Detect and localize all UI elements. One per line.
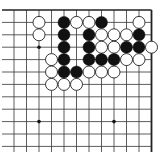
black-stone[interactable] [108,54,120,66]
black-stone[interactable] [58,41,70,53]
star-point [37,45,41,49]
white-stone[interactable] [121,54,133,66]
black-stone[interactable] [121,41,133,53]
white-stone[interactable] [121,29,133,41]
white-stone[interactable] [46,78,58,90]
go-board[interactable] [0,0,158,158]
white-stone[interactable] [83,66,95,78]
white-stone[interactable] [133,54,145,66]
white-stone[interactable] [96,41,108,53]
black-stone[interactable] [83,29,95,41]
white-stone[interactable] [71,78,83,90]
black-stone[interactable] [58,54,70,66]
black-stone[interactable] [96,54,108,66]
black-stone[interactable] [83,41,95,53]
black-stone[interactable] [71,66,83,78]
white-stone[interactable] [33,16,45,28]
black-stone[interactable] [83,54,95,66]
black-stone[interactable] [133,29,145,41]
white-stone[interactable] [58,78,70,90]
black-stone[interactable] [133,41,145,53]
white-stone[interactable] [96,66,108,78]
white-stone[interactable] [108,29,120,41]
white-stone[interactable] [96,29,108,41]
white-stone[interactable] [71,16,83,28]
white-stone[interactable] [46,54,58,66]
white-stone[interactable] [83,16,95,28]
white-stone[interactable] [108,66,120,78]
star-point [112,120,116,124]
black-stone[interactable] [96,16,108,28]
white-stone[interactable] [133,16,145,28]
black-stone[interactable] [58,29,70,41]
star-point [37,120,41,124]
white-stone[interactable] [108,41,120,53]
white-stone[interactable] [146,41,158,53]
white-stone[interactable] [46,66,58,78]
black-stone[interactable] [58,66,70,78]
black-stone[interactable] [58,16,70,28]
white-stone[interactable] [33,29,45,41]
